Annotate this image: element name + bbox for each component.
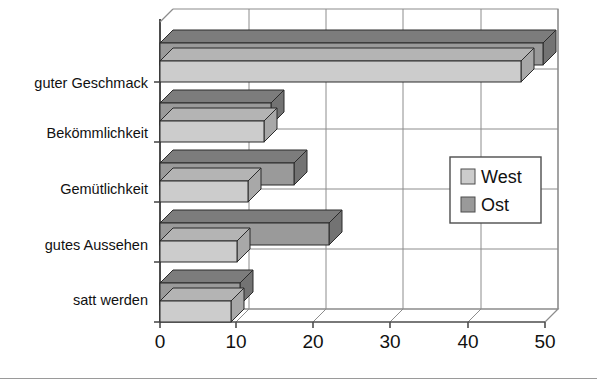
x-tick-label-50: 50	[534, 331, 555, 352]
legend-swatch-west	[461, 169, 475, 184]
bottom-divider	[0, 378, 597, 379]
bar-bekoemmlichkeit-west[interactable]	[160, 108, 277, 142]
category-label-gutes-aussehen: gutes Aussehen	[45, 237, 148, 253]
x-tick-label-30: 30	[379, 331, 400, 352]
x-tick-label-20: 20	[302, 331, 323, 352]
x-axis-ticks	[160, 322, 545, 328]
chart-container: guter Geschmack Bekömmlichkeit Gemütlich…	[0, 0, 597, 384]
bar-satt-werden-west[interactable]	[160, 288, 244, 322]
bar-gutes-aussehen-west[interactable]	[160, 228, 250, 262]
bar-group-guter-geschmack	[160, 30, 556, 82]
x-tick-label-10: 10	[225, 331, 246, 352]
bar-group-bekoemmlichkeit	[160, 90, 284, 142]
legend-entry-west[interactable]: West	[461, 167, 522, 187]
x-tick-label-40: 40	[457, 331, 478, 352]
category-label-guter-geschmack: guter Geschmack	[34, 75, 148, 91]
legend-label-ost: Ost	[481, 195, 509, 215]
left-wall-top-edge	[160, 9, 173, 22]
bar-guter-geschmack-west[interactable]	[160, 48, 534, 82]
category-axis-labels: guter Geschmack Bekömmlichkeit Gemütlich…	[34, 75, 148, 308]
bar-gemuetlichkeit-west[interactable]	[160, 168, 261, 202]
bar-group-satt-werden	[160, 270, 253, 322]
legend-label-west: West	[481, 167, 522, 187]
category-label-satt-werden: satt werden	[73, 292, 148, 308]
x-axis-tick-labels: 0 10 20 30 40 50	[155, 331, 556, 352]
category-label-bekoemmlichkeit: Bekömmlichkeit	[46, 125, 148, 141]
legend-entry-ost[interactable]: Ost	[461, 195, 509, 215]
legend: West Ost	[450, 157, 541, 223]
category-label-gemuetlichkeit: Gemütlichkeit	[60, 181, 148, 197]
bar-group-gutes-aussehen	[160, 210, 342, 262]
x-tick-label-0: 0	[155, 331, 166, 352]
legend-swatch-ost	[461, 197, 475, 212]
bar-group-gemuetlichkeit	[160, 150, 307, 202]
bar-chart-svg: guter Geschmack Bekömmlichkeit Gemütlich…	[0, 0, 597, 384]
